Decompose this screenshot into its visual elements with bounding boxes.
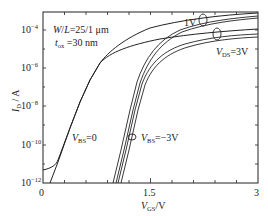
svg-text:3: 3	[254, 187, 259, 198]
annotation-oxide: tox =30 nm	[55, 37, 98, 49]
svg-text:10−4: 10−4	[21, 23, 39, 35]
annotation-vbs-m3: VBS=−3V	[141, 132, 179, 144]
curve-vbsm3-vds3v-a	[113, 16, 258, 183]
svg-text:10−10: 10−10	[21, 138, 41, 150]
annotation-vds-3v: VDS=3V	[216, 46, 249, 58]
y-axis-title: ID / A	[10, 89, 22, 113]
curve-vbsm3-vds1v-b	[121, 37, 258, 183]
x-axis-title: VGS/V	[141, 200, 166, 212]
annotation-geometry: W/L=25/1 μm	[53, 24, 109, 35]
svg-text:10−6: 10−6	[21, 61, 39, 73]
y-tick-labels: 10−4 10−6 10−8 10−10 10−12	[21, 23, 41, 188]
svg-text:1.5: 1.5	[143, 187, 156, 198]
x-tick-labels: 0 1.5 3	[39, 187, 259, 198]
curves-vbs-m3	[113, 16, 258, 183]
chart: 10−4 10−6 10−8 10−10 10−12 0 1.5 3 VGS/V…	[0, 0, 268, 216]
annotation-vbs-0: VBS=0	[72, 132, 97, 144]
svg-text:0: 0	[39, 187, 44, 198]
svg-text:10−8: 10−8	[21, 99, 38, 111]
